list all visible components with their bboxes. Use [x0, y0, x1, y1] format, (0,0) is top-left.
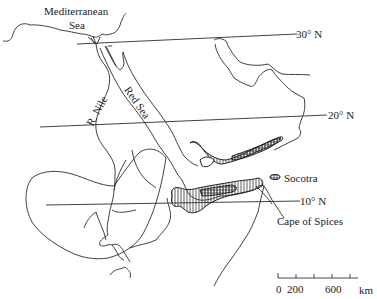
map: Mediterranean Sea R. Nile Red Sea 30° N … [0, 0, 377, 299]
scale-tick-600: 600 [325, 283, 342, 295]
label-lat-10: 10° N [300, 195, 326, 207]
red-sea-west-coast [100, 48, 194, 198]
label-mediterranean: Mediterranean [44, 5, 108, 17]
label-cape-of-spices: Cape of Spices [277, 215, 343, 227]
label-mediterranean-sea: Sea [69, 19, 85, 31]
highland-south [171, 178, 262, 213]
label-lat-20: 20° N [328, 109, 354, 121]
scale-tick-200: 200 [287, 283, 304, 295]
nile-river [96, 44, 115, 235]
label-socotra: Socotra [284, 172, 318, 184]
red-sea-east-coast [105, 46, 198, 166]
scale-tick-0: 0 [276, 283, 282, 295]
scale-unit: km [359, 284, 373, 296]
label-lat-30: 30° N [296, 28, 322, 40]
lat-30-line [77, 34, 297, 44]
scale-bar [278, 273, 358, 278]
map-drawing [0, 0, 377, 299]
mediterranean-coast [3, 14, 126, 41]
socotra-island [270, 175, 280, 180]
